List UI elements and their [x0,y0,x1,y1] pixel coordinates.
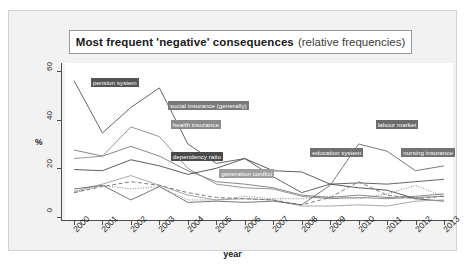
series-direct-label: labour market [376,120,418,129]
y-axis-line [61,63,62,220]
series-direct-label: education system [310,148,363,157]
series-line [74,127,444,199]
series-direct-label: pension system [91,78,139,87]
y-tick-mark [57,71,61,72]
chart-screenshot: Most frequent 'negative' consequences (r… [0,0,468,267]
y-tick-mark [57,217,61,218]
series-direct-label: nursing insurance [401,148,455,157]
y-tick-mark [57,168,61,169]
chart-title-box: Most frequent 'negative' consequences (r… [69,30,412,54]
chart-title-subtitle: (relative frequencies) [298,36,405,48]
series-direct-label: dependency ratio [171,152,223,161]
y-tick-mark [57,120,61,121]
y-tick-label: 0 [45,208,54,212]
series-line [74,159,444,202]
chart-title-main: Most frequent 'negative' consequences [76,36,294,48]
figure-panel: Most frequent 'negative' consequences (r… [8,10,457,251]
y-axis-title: % [35,137,43,147]
y-tick-label: 40 [45,111,54,120]
x-axis-title: year [9,249,456,259]
series-direct-label: generation conflict [219,169,274,178]
series-direct-label: health insurance [171,120,221,129]
y-tick-label: 20 [45,159,54,168]
series-direct-label: social insurance (generally) [168,101,249,110]
y-tick-label: 60 [45,62,54,71]
